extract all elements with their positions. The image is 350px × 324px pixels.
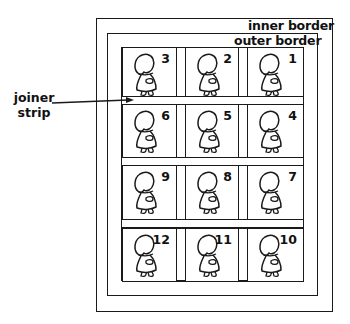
joiner-strip-label-line1: joiner xyxy=(9,91,59,105)
block-figure xyxy=(131,52,165,98)
quilt-block: 5 xyxy=(185,104,239,158)
quilt-block: 3 xyxy=(122,47,177,97)
inner-border-label: inner border xyxy=(248,19,334,33)
block-number: 11 xyxy=(215,233,232,246)
bonnet-girl-icon xyxy=(131,109,165,155)
block-number: 12 xyxy=(153,233,170,246)
joiner-strip xyxy=(121,219,304,228)
block-number: 8 xyxy=(223,170,232,183)
bonnet-girl-icon xyxy=(131,52,165,98)
block-number: 1 xyxy=(288,52,297,65)
block-figure xyxy=(131,170,165,216)
quilt-block: 4 xyxy=(247,104,304,158)
quilt-block: 8 xyxy=(185,165,239,220)
bonnet-girl-icon xyxy=(256,52,290,98)
quilt-block: 10 xyxy=(247,228,304,282)
quilt-block: 2 xyxy=(185,47,239,97)
bonnet-girl-icon xyxy=(131,170,165,216)
block-number: 6 xyxy=(161,109,170,122)
block-figure xyxy=(256,52,290,98)
block-figure xyxy=(256,109,290,155)
bonnet-girl-icon xyxy=(256,170,290,216)
joiner-strip-label-line2: strip xyxy=(9,106,59,120)
block-number: 7 xyxy=(288,170,297,183)
block-number: 3 xyxy=(161,52,170,65)
block-number: 2 xyxy=(223,52,232,65)
block-number: 4 xyxy=(288,109,297,122)
quilt-block: 6 xyxy=(122,104,177,158)
quilt-block: 7 xyxy=(247,165,304,220)
quilt-block: 12 xyxy=(122,228,177,282)
quilt-block: 11 xyxy=(185,228,239,282)
block-number: 10 xyxy=(280,233,297,246)
quilt-block: 9 xyxy=(122,165,177,220)
bonnet-girl-icon xyxy=(256,109,290,155)
block-figure xyxy=(131,109,165,155)
block-figure xyxy=(256,170,290,216)
quilt-block: 1 xyxy=(247,47,304,97)
outer-border-label: outer border xyxy=(234,34,321,48)
block-number: 9 xyxy=(161,170,170,183)
block-number: 5 xyxy=(223,109,232,122)
